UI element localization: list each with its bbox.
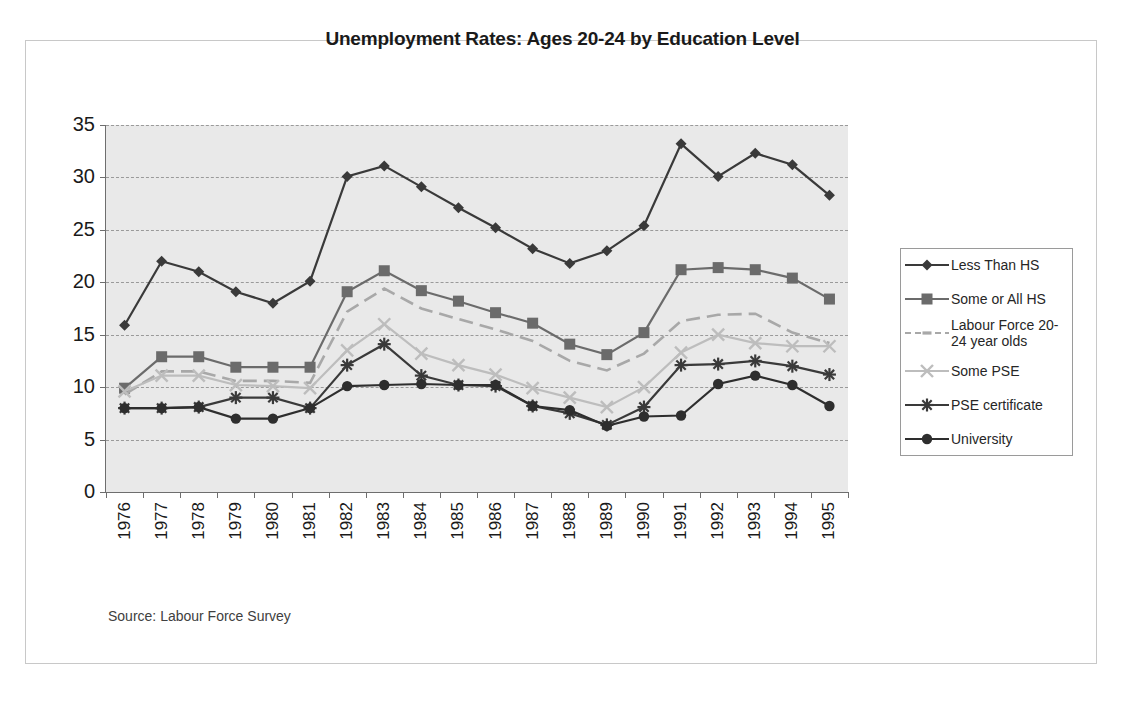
- data-point-square: [527, 318, 538, 329]
- data-point-circle: [231, 413, 241, 423]
- y-axis-tick-label: 20: [49, 271, 95, 291]
- data-point-asterisk: [712, 358, 725, 371]
- legend-marker-asterisk-icon: [903, 395, 951, 415]
- data-point-circle: [194, 402, 204, 412]
- y-axis-tick-label: 30: [49, 166, 95, 186]
- x-axis-tick-label: 1990: [634, 502, 654, 540]
- data-point-circle: [342, 381, 352, 391]
- data-point-diamond: [119, 320, 130, 331]
- data-point-asterisk: [921, 399, 934, 412]
- legend-label: Some or All HS: [951, 291, 1046, 307]
- data-point-square: [601, 349, 612, 360]
- x-tick-mark: [180, 492, 181, 498]
- legend-label: Labour Force 20- 24 year olds: [951, 317, 1058, 349]
- data-point-diamond: [416, 181, 427, 192]
- x-axis-tick-label: 1977: [152, 502, 172, 540]
- legend-label: Less Than HS: [951, 257, 1039, 273]
- x-axis-tick-label: 1984: [411, 502, 431, 540]
- data-point-asterisk: [378, 338, 391, 351]
- series-layer: [106, 125, 848, 492]
- data-point-circle: [565, 405, 575, 415]
- x-tick-mark: [292, 492, 293, 498]
- legend-item[interactable]: PSE certificate: [901, 395, 1072, 415]
- data-point-circle: [490, 380, 500, 390]
- data-point-square: [453, 296, 464, 307]
- x-axis-tick-label: 1980: [263, 502, 283, 540]
- x-axis-tick-label: 1995: [819, 502, 839, 540]
- legend-item[interactable]: Some PSE: [901, 361, 1072, 381]
- data-point-circle: [639, 411, 649, 421]
- data-point-square: [379, 265, 390, 276]
- data-point-square: [676, 264, 687, 275]
- data-point-asterisk: [229, 391, 242, 404]
- data-point-diamond: [922, 260, 933, 271]
- x-tick-mark: [848, 492, 849, 498]
- x-tick-mark: [514, 492, 515, 498]
- x-axis-tick-label: 1994: [782, 502, 802, 540]
- legend-item[interactable]: Some or All HS: [901, 289, 1072, 309]
- x-axis-tick-label: 1982: [337, 502, 357, 540]
- data-point-square: [305, 362, 316, 373]
- data-point-circle: [824, 401, 834, 411]
- data-point-asterisk: [786, 360, 799, 373]
- legend-item[interactable]: Labour Force 20- 24 year olds: [901, 323, 1072, 343]
- chart-title: Unemployment Rates: Ages 20-24 by Educat…: [0, 28, 1125, 50]
- x-axis-tick-label: 1978: [189, 502, 209, 540]
- x-tick-mark: [774, 492, 775, 498]
- data-point-circle: [156, 403, 166, 413]
- data-point-square: [564, 339, 575, 350]
- data-point-circle: [527, 401, 537, 411]
- data-point-x: [378, 318, 390, 330]
- legend-item[interactable]: Less Than HS: [901, 255, 1072, 275]
- x-axis-tick-label: 1989: [597, 502, 617, 540]
- plot-area: [105, 125, 848, 493]
- series-line: [125, 144, 830, 325]
- data-point-circle: [119, 403, 129, 413]
- data-point-diamond: [193, 266, 204, 277]
- data-point-diamond: [564, 258, 575, 269]
- x-axis-tick-label: 1988: [560, 502, 580, 540]
- y-axis-tick-label: 25: [49, 219, 95, 239]
- legend-marker-x-icon: [903, 361, 951, 381]
- chart-page: Unemployment Rates: Ages 20-24 by Educat…: [0, 0, 1125, 703]
- x-tick-mark: [737, 492, 738, 498]
- x-axis-tick-label: 1993: [745, 502, 765, 540]
- x-tick-mark: [106, 492, 107, 498]
- x-tick-mark: [477, 492, 478, 498]
- x-tick-mark: [366, 492, 367, 498]
- data-point-square: [267, 362, 278, 373]
- y-axis-tick-label: 5: [49, 429, 95, 449]
- legend-label: University: [951, 431, 1012, 447]
- data-point-square: [156, 351, 167, 362]
- x-tick-mark: [143, 492, 144, 498]
- data-point-circle: [676, 410, 686, 420]
- data-point-circle: [750, 370, 760, 380]
- data-point-circle: [305, 403, 315, 413]
- data-point-diamond: [490, 222, 501, 233]
- x-tick-mark: [329, 492, 330, 498]
- x-tick-mark: [625, 492, 626, 498]
- data-point-square: [638, 327, 649, 338]
- x-tick-mark: [551, 492, 552, 498]
- data-point-square: [193, 351, 204, 362]
- data-point-x: [341, 344, 353, 356]
- legend-marker-diamond-icon: [903, 255, 951, 275]
- x-tick-mark: [403, 492, 404, 498]
- x-axis-tick-label: 1979: [226, 502, 246, 540]
- legend-item[interactable]: University: [901, 429, 1072, 449]
- y-axis-tick-label: 35: [49, 114, 95, 134]
- data-point-diamond: [342, 171, 353, 182]
- data-point-circle: [379, 380, 389, 390]
- y-axis-tick-label: 10: [49, 376, 95, 396]
- data-point-square: [824, 294, 835, 305]
- data-point-circle: [602, 421, 612, 431]
- data-point-diamond: [750, 148, 761, 159]
- x-tick-mark: [700, 492, 701, 498]
- data-point-square: [787, 273, 798, 284]
- data-point-diamond: [379, 160, 390, 171]
- legend-marker-square-icon: [903, 289, 951, 309]
- data-point-circle: [416, 379, 426, 389]
- series-1: [119, 138, 835, 330]
- data-point-diamond: [527, 243, 538, 254]
- x-tick-mark: [254, 492, 255, 498]
